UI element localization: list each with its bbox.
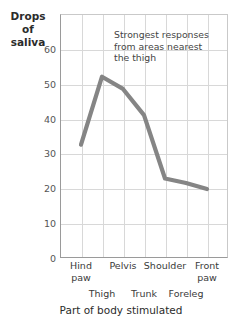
x-tick-label: Thigh xyxy=(89,288,116,300)
y-tick-label: 0 xyxy=(30,253,56,264)
annotation-line-3: the thigh xyxy=(114,52,226,64)
x-axis-tick-labels-upper: HindpawPelvisShoulderFrontpaw xyxy=(60,260,228,290)
annotation-line-1: Strongest responses xyxy=(114,29,226,41)
y-tick-label: 10 xyxy=(30,218,56,229)
x-tick-label-line: Shoulder xyxy=(144,260,186,272)
y-tick-label: 50 xyxy=(30,78,56,89)
gridline-horizontal xyxy=(61,85,227,86)
x-tick-label: Pelvis xyxy=(109,260,136,272)
x-tick-label-line: Hind xyxy=(70,260,92,272)
gridline-horizontal xyxy=(61,120,227,121)
x-tick-label-line: Foreleg xyxy=(169,288,204,300)
y-tick-label: 60 xyxy=(30,43,56,54)
gridline-horizontal xyxy=(61,224,227,225)
gridline-vertical xyxy=(82,15,83,257)
x-tick-label-line: paw xyxy=(195,272,219,284)
x-axis-tick-labels-lower: ThighTrunkForeleg xyxy=(60,288,228,304)
y-tick-label: 20 xyxy=(30,183,56,194)
gridline-horizontal xyxy=(61,154,227,155)
x-tick-label-line: Front xyxy=(195,260,219,272)
x-tick-label: Shoulder xyxy=(144,260,186,272)
x-tick-label-line: Trunk xyxy=(131,288,157,300)
annotation-line-2: from areas nearest xyxy=(114,41,226,53)
y-tick-label: 40 xyxy=(30,113,56,124)
x-tick-label: Trunk xyxy=(131,288,157,300)
x-tick-label-line: Pelvis xyxy=(109,260,136,272)
gridline-vertical xyxy=(103,15,104,257)
x-tick-label-line: Thigh xyxy=(89,288,116,300)
x-tick-label: Foreleg xyxy=(169,288,204,300)
chart-annotation: Strongest responses from areas nearest t… xyxy=(114,29,226,64)
x-tick-label-line: paw xyxy=(70,272,92,284)
y-axis-tick-labels: 6050403020100 xyxy=(28,14,56,258)
y-tick-label: 30 xyxy=(30,148,56,159)
gridline-horizontal xyxy=(61,189,227,190)
x-tick-label: Hindpaw xyxy=(70,260,92,283)
x-axis-title: Part of body stimulated xyxy=(0,304,242,316)
x-tick-label: Frontpaw xyxy=(195,260,219,283)
